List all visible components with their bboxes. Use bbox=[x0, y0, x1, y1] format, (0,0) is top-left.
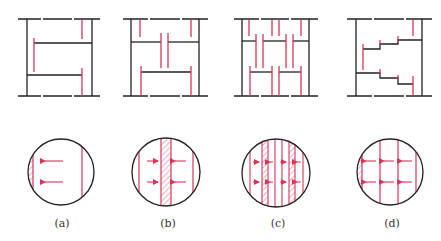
panel-a-label: (a) bbox=[54, 217, 69, 230]
tray-flow-diagram bbox=[0, 0, 441, 241]
panel-b-plan-view bbox=[132, 136, 200, 208]
panel-c-plan-view bbox=[242, 136, 310, 210]
panel-c-column bbox=[234, 19, 318, 96]
panel-c-label: (c) bbox=[271, 217, 286, 230]
panel-d-column bbox=[347, 19, 432, 96]
panel-a-column bbox=[18, 19, 100, 96]
panel-d-label: (d) bbox=[384, 217, 400, 230]
panel-d-plan-view bbox=[356, 139, 423, 205]
panel-a-plan-view bbox=[26, 139, 94, 205]
panel-b-label: (b) bbox=[160, 217, 176, 230]
panel-b-column bbox=[123, 19, 208, 96]
